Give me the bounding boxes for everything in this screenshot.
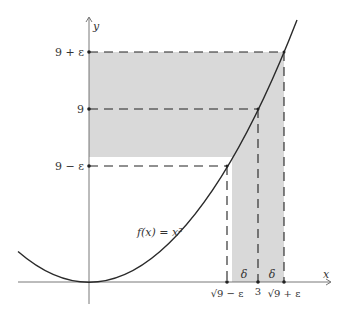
tick-dot-9-minus-eps	[87, 164, 91, 168]
delta-label-left: δ	[241, 268, 248, 281]
y-axis-label: y	[92, 20, 100, 33]
tick-dot-9	[87, 107, 91, 111]
curve-point-9-minus-eps	[226, 165, 229, 168]
curve-point-9-plus-eps	[283, 51, 286, 54]
tick-dot-sqrt-9-plus-eps	[282, 280, 286, 284]
curve-point-9	[257, 108, 260, 111]
x-axis-label: x	[323, 268, 330, 281]
epsilon-delta-diagram: y x 9 + ε 9 9 − ε √9 − ε 3 √9 + ε δ δ f(…	[0, 0, 349, 315]
tick-dot-sqrt-9-minus-eps	[225, 280, 229, 284]
delta-label-right: δ	[269, 268, 276, 281]
diagram-canvas: y x 9 + ε 9 9 − ε √9 − ε 3 √9 + ε δ δ f(…	[0, 0, 349, 315]
y-tick-label-9: 9	[77, 103, 84, 116]
x-tick-label-3: 3	[255, 286, 261, 297]
shaded-y-band	[89, 52, 284, 157]
x-tick-label-sqrt-9-plus-eps: √9 + ε	[268, 288, 301, 299]
function-label: f(x) = x²	[136, 226, 183, 239]
y-tick-label-9-minus-eps: 9 − ε	[55, 160, 84, 173]
x-tick-label-sqrt-9-minus-eps: √9 − ε	[211, 288, 244, 299]
y-tick-label-9-plus-eps: 9 + ε	[55, 46, 84, 59]
tick-dot-3	[256, 280, 260, 284]
tick-dot-9-plus-eps	[87, 50, 91, 54]
